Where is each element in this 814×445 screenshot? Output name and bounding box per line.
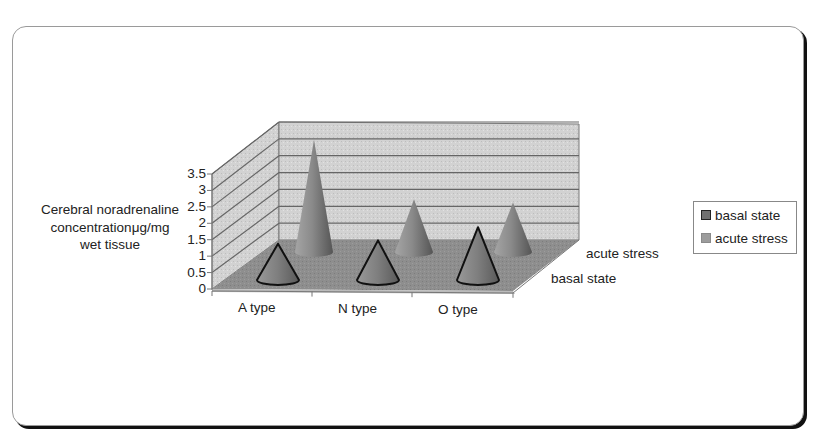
legend-swatch-acute xyxy=(701,233,711,243)
y-axis-title-line-1: Cerebral noradrenaline xyxy=(20,201,200,219)
y-axis-title: Cerebral noradrenaline concentrationμg/m… xyxy=(20,201,200,254)
y-tick-label: 3.5 xyxy=(186,167,206,181)
y-tick-label: 1 xyxy=(186,249,206,263)
x-category-o-type: O type xyxy=(438,302,478,317)
y-tick-label: 2 xyxy=(186,216,206,230)
y-tick-label: 3 xyxy=(186,183,206,197)
y-axis-title-line-3: wet tissue xyxy=(20,236,200,254)
depth-label-basal-state: basal state xyxy=(551,271,616,286)
y-tick-label: 0 xyxy=(186,282,206,296)
y-axis-title-line-2: concentrationμg/mg xyxy=(20,219,200,237)
depth-label-acute-stress: acute stress xyxy=(586,246,659,261)
x-category-a-type: A type xyxy=(238,300,276,315)
y-tick-label: 0.5 xyxy=(186,266,206,280)
y-tick-label: 2.5 xyxy=(186,200,206,214)
x-category-n-type: N type xyxy=(338,301,377,316)
y-tick-label: 1.5 xyxy=(186,233,206,247)
legend: basal state acute stress xyxy=(693,201,797,254)
legend-item-basal-state: basal state xyxy=(701,208,780,223)
legend-item-acute-stress: acute stress xyxy=(701,231,788,246)
legend-swatch-basal xyxy=(701,210,711,220)
